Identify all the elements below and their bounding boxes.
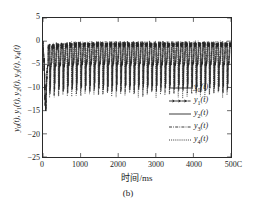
legend-item[interactable]: y0(t)	[168, 82, 232, 94]
y-axis-label-text: y0(t), y1(t), y2(t), y3(t), y4(t)	[12, 45, 21, 132]
legend-line-sample	[168, 109, 192, 119]
legend-line-sample	[168, 96, 192, 106]
legend-item[interactable]: y1(t)	[168, 95, 232, 107]
legend-marker	[178, 99, 181, 102]
legend-line-sample	[168, 83, 192, 93]
x-tick-label: 3000	[148, 160, 164, 169]
legend-item[interactable]: y2(t)	[168, 108, 232, 120]
legend-line-sample	[168, 135, 192, 145]
x-tick-label: 500C	[225, 160, 242, 169]
legend-label: y0(t)	[194, 82, 208, 95]
figure-caption: (b)	[0, 188, 256, 199]
legend: y0(t)y1(t)y2(t)y3(t)y4(t)	[168, 82, 232, 146]
legend-line-sample	[168, 122, 192, 132]
legend-label: y4(t)	[194, 134, 208, 147]
x-axis-tick-labels: 01000200030004000500C	[0, 160, 256, 172]
legend-marker	[172, 99, 175, 102]
legend-item[interactable]: y3(t)	[168, 121, 232, 133]
x-tick-label: 2000	[110, 160, 126, 169]
x-axis-label-cn: 时间	[121, 173, 139, 183]
legend-marker	[184, 99, 187, 102]
x-tick-label: 0	[40, 160, 44, 169]
figure-panel-b: 50−5−10−15−20−25 y0(t), y1(t), y2(t), y3…	[0, 0, 256, 206]
x-axis-label-unit: /ms	[139, 173, 152, 183]
legend-label: y3(t)	[194, 121, 208, 134]
legend-item[interactable]: y4(t)	[168, 134, 232, 146]
legend-label: y1(t)	[194, 95, 208, 108]
x-tick-label: 1000	[72, 160, 88, 169]
x-axis-label: 时间/ms	[42, 173, 232, 184]
x-tick-label: 4000	[186, 160, 202, 169]
legend-label: y2(t)	[194, 108, 208, 121]
y-axis-label: y0(t), y1(t), y2(t), y3(t), y4(t)	[12, 13, 25, 163]
